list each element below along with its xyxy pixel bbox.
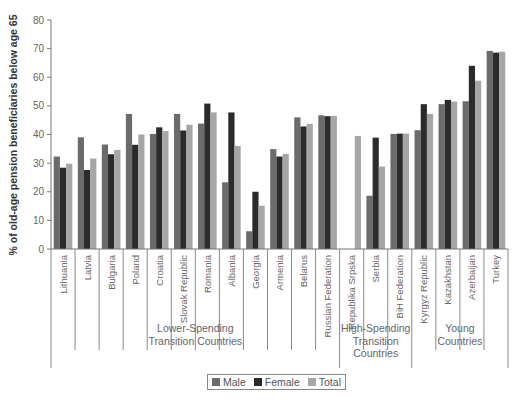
bar-male — [318, 115, 324, 249]
bar-male — [174, 114, 180, 249]
category-label: Kazakhstan — [442, 255, 453, 305]
bar-total — [162, 131, 168, 249]
category-label: Armenia — [274, 254, 285, 290]
bar-male — [390, 134, 396, 249]
category-label: Serbia — [370, 254, 381, 282]
bar-total — [186, 125, 192, 249]
bar-male — [54, 157, 60, 249]
bar-female — [252, 192, 258, 249]
bar-total — [66, 164, 72, 249]
category-label: Lithuania — [58, 254, 69, 293]
group-label: Transition Countries — [149, 335, 243, 347]
category-label: Poland — [130, 255, 141, 285]
bar-male — [246, 231, 252, 249]
bar-male — [270, 149, 276, 249]
bar-total — [355, 136, 361, 249]
y-tick-label: 10 — [33, 215, 45, 226]
bar-female — [132, 145, 138, 249]
bar-female — [276, 157, 282, 249]
bar-male — [487, 51, 493, 249]
bar-chart: 01020304050607080 LithuaniaLatviaBulgari… — [0, 0, 520, 399]
bar-male — [78, 137, 84, 249]
bar-female — [469, 66, 475, 249]
legend: MaleFemaleTotal — [207, 374, 346, 390]
bar-female — [397, 134, 403, 249]
category-label: Russian Federation — [322, 255, 333, 337]
y-tick-label: 0 — [38, 244, 44, 255]
y-tick-label: 80 — [33, 15, 45, 26]
bar-female — [493, 53, 499, 249]
bar-total — [403, 134, 409, 249]
group-label: Transition — [353, 335, 399, 347]
bar-male — [439, 104, 445, 249]
bar-male — [222, 182, 228, 249]
legend-swatch — [212, 378, 220, 386]
bar-total — [259, 206, 265, 249]
category-label: Slovak Republic — [178, 255, 189, 323]
bar-male — [366, 196, 372, 249]
legend-label: Female — [265, 376, 300, 388]
y-tick-label: 50 — [33, 100, 45, 111]
legend-label: Male — [223, 376, 246, 388]
bar-female — [325, 116, 331, 249]
category-label: Turkey — [490, 255, 501, 284]
category-label: Georgia — [250, 254, 261, 289]
legend-swatch — [254, 378, 262, 386]
bar-male — [198, 124, 204, 249]
bar-total — [90, 159, 96, 249]
bar-total — [475, 81, 481, 249]
y-tick-label: 60 — [33, 72, 45, 83]
group-label: Lower-Spending — [157, 322, 234, 334]
bar-female — [60, 168, 66, 249]
y-axis-label: % of old-age pension beneficiaries below… — [7, 14, 19, 255]
y-tick-label: 20 — [33, 186, 45, 197]
legend-swatch — [308, 378, 316, 386]
bars — [54, 51, 506, 249]
group-label: Countries — [437, 335, 482, 347]
group-label: High-Spending — [341, 322, 411, 334]
bar-total — [210, 112, 216, 249]
group-label: Countries — [353, 347, 398, 359]
category-label: Albania — [226, 254, 237, 286]
legend-item-total: Total — [308, 376, 341, 388]
bar-female — [204, 104, 210, 249]
category-label: Bulgaria — [106, 254, 117, 290]
bar-total — [138, 135, 144, 250]
category-label: Republika Srpska — [346, 254, 357, 329]
bar-female — [180, 130, 186, 249]
bar-total — [379, 167, 385, 249]
y-axis: 01020304050607080 — [33, 15, 51, 255]
bar-total — [331, 116, 337, 249]
bar-male — [150, 134, 156, 249]
category-label: BiH Federation — [394, 255, 405, 318]
bar-male — [415, 130, 421, 249]
y-tick-label: 70 — [33, 43, 45, 54]
bar-total — [283, 154, 289, 249]
x-axis: LithuaniaLatviaBulgariaPolandCroatiaSlov… — [51, 249, 508, 368]
bar-female — [300, 126, 306, 249]
y-tick-label: 40 — [33, 129, 45, 140]
group-label: Young — [445, 322, 475, 334]
category-label: Azerbaijan — [466, 255, 477, 300]
bar-male — [463, 101, 469, 249]
category-label: Kyrgyz Republic — [418, 255, 429, 324]
category-label: Croatia — [154, 254, 165, 285]
y-tick-label: 30 — [33, 158, 45, 169]
legend-item-female: Female — [254, 376, 300, 388]
bar-female — [228, 112, 234, 249]
bar-total — [451, 102, 457, 249]
bar-total — [307, 124, 313, 249]
legend-item-male: Male — [212, 376, 246, 388]
bar-female — [108, 154, 114, 249]
bar-female — [84, 170, 90, 249]
category-label: Romania — [202, 254, 213, 293]
category-label: Latvia — [82, 254, 93, 280]
bar-female — [421, 104, 427, 249]
bar-total — [499, 52, 505, 249]
legend-label: Total — [319, 376, 341, 388]
bar-female — [445, 100, 451, 249]
bar-female — [156, 127, 162, 249]
bar-total — [427, 114, 433, 249]
bar-male — [126, 114, 132, 249]
bar-total — [114, 150, 120, 249]
